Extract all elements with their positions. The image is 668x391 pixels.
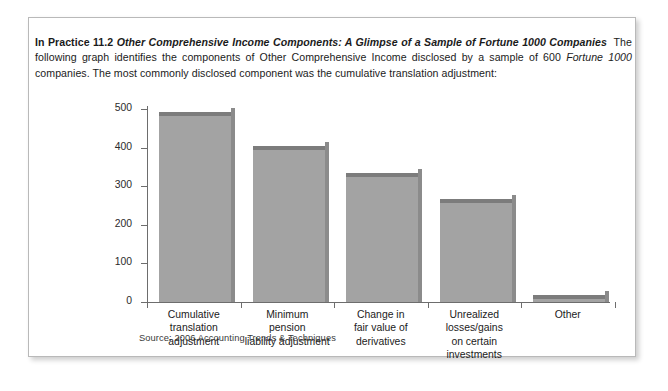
bar-front-face [159, 112, 231, 302]
y-axis-tick-label: 300 [115, 179, 132, 190]
bar-front-face [253, 146, 325, 302]
intro-body-italic: Fortune 1000 [566, 51, 632, 63]
bar [440, 195, 516, 302]
bar-side-face [512, 195, 516, 302]
bar-side-face [325, 142, 329, 302]
bar-top-face [346, 173, 418, 177]
bar-side-face [605, 291, 609, 302]
intro-lead-title: Other Comprehensive Income Components: A… [117, 36, 607, 48]
y-axis-tick-label: 500 [115, 102, 132, 113]
y-axis-tick: 100 [141, 263, 147, 264]
bar [346, 169, 422, 302]
bar [253, 142, 329, 302]
category-label: Change in fair value of derivatives [334, 308, 428, 348]
bar-side-face [418, 169, 422, 302]
y-axis-tick: 300 [141, 186, 147, 187]
y-axis-tick: 500 [141, 109, 147, 110]
intro-body-part-2: companies. The most commonly disclosed c… [35, 67, 497, 79]
bar-top-face [533, 295, 605, 299]
oci-components-bar-chart: 0100200300400500 Cumulative translation … [29, 82, 636, 357]
y-axis-tick: 400 [141, 148, 147, 149]
in-practice-panel: In Practice 11.2 Other Comprehensive Inc… [28, 17, 636, 357]
x-axis-line [147, 302, 610, 303]
bar-side-face [231, 108, 235, 302]
category-label: Other [521, 308, 615, 321]
y-axis-tick-label: 100 [115, 256, 132, 267]
y-axis-tick-label: 400 [115, 141, 132, 152]
source-note: Source: 2006 Accounting Trends & Techniq… [139, 333, 336, 343]
bar [159, 108, 235, 302]
y-axis-tick-label: 0 [126, 295, 132, 306]
bar-front-face [533, 295, 605, 302]
bar-top-face [253, 146, 325, 150]
y-axis-tick: 200 [141, 225, 147, 226]
x-axis-tick [615, 302, 616, 308]
chart-plot-area: 0100200300400500 Cumulative translation … [147, 109, 609, 302]
intro-lead-prefix: In Practice 11.2 [35, 36, 113, 48]
bar-front-face [440, 199, 512, 302]
y-axis-tick-label: 200 [115, 218, 132, 229]
category-label: Unrealized losses/gains on certain inves… [428, 308, 522, 362]
y-axis-line [147, 106, 148, 302]
bar [533, 291, 609, 302]
intro-paragraph: In Practice 11.2 Other Comprehensive Inc… [35, 35, 632, 82]
bar-front-face [346, 173, 418, 302]
bar-top-face [440, 199, 512, 203]
bar-top-face [159, 112, 231, 116]
